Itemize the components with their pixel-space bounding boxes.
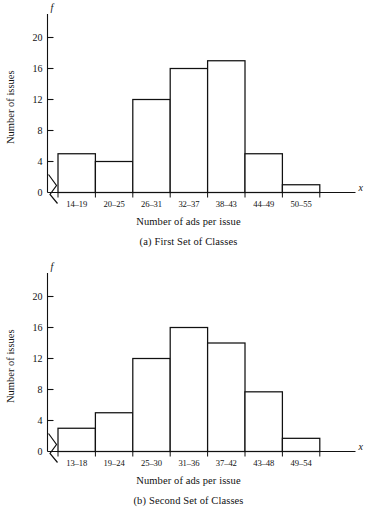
histogram-bar — [245, 154, 282, 193]
histogram-bar — [58, 154, 95, 193]
histogram-a-plot: 048121620fx14–1920–2526–3132–3738–4344–4… — [0, 0, 377, 215]
x-axis-class-label: 25–30 — [141, 458, 162, 468]
y-axis-tick-label: 16 — [33, 63, 43, 74]
y-axis-tick-label: 0 — [38, 446, 43, 457]
x-axis-class-label: 20–25 — [104, 199, 125, 209]
x-axis-class-label: 44–49 — [253, 199, 274, 209]
x-axis-class-label: 26–31 — [141, 199, 162, 209]
x-axis-symbol: x — [358, 182, 364, 193]
x-axis-symbol: x — [358, 441, 364, 452]
figure-caption-label-a: (a) — [140, 236, 152, 247]
y-axis-tick-label: 20 — [33, 291, 43, 302]
x-axis-class-label: 37–42 — [216, 458, 237, 468]
histogram-bar — [58, 428, 95, 451]
histogram-bar — [208, 343, 245, 452]
histogram-bar — [282, 438, 319, 451]
figure-caption-label-b: (b) — [133, 495, 146, 506]
x-axis-class-label: 19–24 — [104, 458, 126, 468]
y-axis-tick-label: 12 — [33, 94, 43, 105]
y-axis-title: Number of issues — [5, 71, 16, 145]
histogram-bar — [208, 61, 245, 193]
y-axis-tick-label: 8 — [38, 125, 43, 136]
histogram-bar — [133, 359, 170, 452]
y-axis-title: Number of issues — [5, 330, 16, 404]
histogram-bar — [95, 413, 132, 452]
figure-caption-text-b: Second Set of Classes — [149, 495, 244, 506]
x-axis-class-label: 13–18 — [66, 458, 87, 468]
histogram-bar — [282, 185, 319, 193]
histogram-b-plot: 048121620fx13–1819–2425–3031–3637–4243–4… — [0, 259, 377, 474]
histogram-bar — [133, 100, 170, 193]
x-axis-class-label: 50–55 — [291, 199, 312, 209]
histogram-a-svg: 048121620fx14–1920–2526–3132–3738–4344–4… — [0, 0, 377, 215]
histogram-bar — [170, 69, 207, 193]
x-axis-class-label: 49–54 — [291, 458, 313, 468]
figure-a: 048121620fx14–1920–2526–3132–3738–4344–4… — [0, 0, 377, 259]
y-axis-symbol: f — [51, 261, 55, 272]
x-axis-title-a: Number of ads per issue — [0, 216, 377, 227]
x-axis-class-label: 14–19 — [66, 199, 87, 209]
y-axis-tick-label: 8 — [38, 384, 43, 395]
figure-caption-text-a: First Set of Classes — [155, 236, 238, 247]
x-axis-title-b: Number of ads per issue — [0, 475, 377, 486]
figure-caption-a: (a)First Set of Classes — [0, 236, 377, 247]
x-axis-class-label: 38–43 — [216, 199, 237, 209]
y-axis-tick-label: 20 — [33, 32, 43, 43]
axis-break-symbol — [49, 434, 58, 463]
x-axis-class-label: 31–36 — [178, 458, 200, 468]
histogram-bar — [245, 392, 282, 452]
x-axis-class-label: 43–48 — [253, 458, 274, 468]
y-axis-tick-label: 0 — [38, 187, 43, 198]
figure-b: 048121620fx13–1819–2425–3031–3637–4243–4… — [0, 259, 377, 518]
axis-break-symbol — [49, 175, 58, 204]
histogram-bar — [95, 162, 132, 193]
y-axis-tick-label: 4 — [38, 156, 43, 167]
histogram-bar — [170, 328, 207, 452]
figure-caption-b: (b)Second Set of Classes — [0, 495, 377, 506]
x-axis-class-label: 32–37 — [178, 199, 200, 209]
y-axis-symbol: f — [51, 2, 55, 13]
y-axis-tick-label: 4 — [38, 415, 43, 426]
histogram-b-svg: 048121620fx13–1819–2425–3031–3637–4243–4… — [0, 259, 377, 474]
y-axis-tick-label: 16 — [33, 322, 43, 333]
y-axis-tick-label: 12 — [33, 353, 43, 364]
